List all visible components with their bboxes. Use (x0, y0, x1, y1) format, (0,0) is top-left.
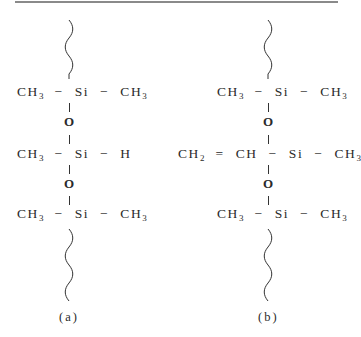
vertical-bond (69, 135, 70, 144)
methyl-group: CH (217, 206, 239, 221)
oxygen-atom: O (261, 177, 275, 191)
single-bond: − (300, 84, 309, 100)
subscript: 2 (200, 153, 205, 163)
structure-b-row-2: CH2 = CH − Si − CH3 (178, 146, 361, 166)
methyl-group: CH (320, 84, 342, 99)
subscript: 3 (342, 91, 347, 101)
subscript: 3 (39, 91, 44, 101)
silicon-atom: Si (275, 84, 289, 99)
single-bond: − (100, 206, 109, 222)
single-bond: − (100, 146, 109, 162)
single-bond: − (254, 84, 263, 100)
methyl-group: CH (217, 84, 239, 99)
polymer-chain-bottom-wavy-icon (62, 228, 76, 304)
structure-b-row-3: CH3 − Si − CH3 (217, 206, 347, 226)
structure-a-label: (a) (59, 310, 79, 325)
vertical-bond (268, 103, 269, 112)
vertical-bond (69, 196, 70, 205)
methyl-group: CH (17, 206, 39, 221)
vertical-bond (69, 103, 70, 112)
silicon-atom: Si (75, 206, 89, 221)
silicon-atom: Si (75, 146, 89, 161)
subscript: 3 (342, 213, 347, 223)
structure-b-row-1: CH3 − Si − CH3 (217, 84, 347, 104)
methyl-group: CH (334, 146, 356, 161)
silicon-atom: Si (75, 84, 89, 99)
single-bond: − (100, 84, 109, 100)
subscript: 3 (142, 213, 147, 223)
methyl-group: CH (120, 84, 142, 99)
subscript: 3 (356, 153, 361, 163)
methyl-group: CH (17, 84, 39, 99)
subscript: 3 (39, 153, 44, 163)
vertical-bond (268, 165, 269, 174)
single-bond: − (54, 146, 63, 162)
methine-group: CH (236, 146, 258, 161)
vertical-bond (268, 196, 269, 205)
structure-a-row-1: CH3 − Si − CH3 (17, 84, 147, 104)
methyl-group: CH (17, 146, 39, 161)
subscript: 3 (239, 91, 244, 101)
methyl-group: CH (120, 206, 142, 221)
vertical-bond (69, 165, 70, 174)
silicon-atom: Si (289, 146, 303, 161)
polymer-chain-bottom-wavy-icon (261, 228, 275, 304)
structure-a-row-2: CH3 − Si − H (17, 146, 132, 166)
vertical-bond (268, 135, 269, 144)
polymer-chain-top-wavy-icon (261, 18, 275, 80)
methylene-group: CH (178, 146, 200, 161)
single-bond: − (54, 84, 63, 100)
subscript: 3 (239, 213, 244, 223)
oxygen-atom: O (261, 115, 275, 129)
silicon-atom: Si (275, 206, 289, 221)
single-bond: − (254, 206, 263, 222)
single-bond: − (314, 146, 323, 162)
subscript: 3 (142, 91, 147, 101)
double-bond: = (215, 146, 224, 162)
methyl-group: CH (320, 206, 342, 221)
subscript: 3 (39, 213, 44, 223)
hydrogen-atom: H (120, 146, 131, 161)
single-bond: − (269, 146, 278, 162)
structure-a-row-3: CH3 − Si − CH3 (17, 206, 147, 226)
oxygen-atom: O (62, 115, 76, 129)
polymer-chain-top-wavy-icon (62, 18, 76, 80)
structure-b-label: (b) (258, 310, 279, 325)
oxygen-atom: O (62, 177, 76, 191)
top-rule (15, 1, 338, 3)
single-bond: − (300, 206, 309, 222)
single-bond: − (54, 206, 63, 222)
